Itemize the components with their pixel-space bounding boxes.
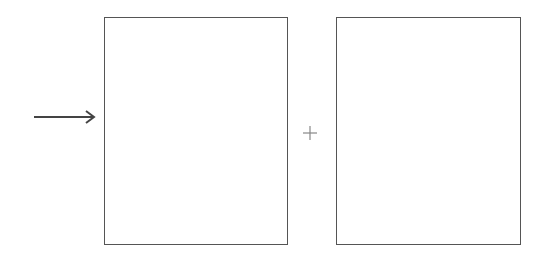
right-panel-content — [337, 18, 338, 19]
left-panel — [104, 17, 288, 245]
left-panel-content — [105, 18, 106, 19]
right-panel — [336, 17, 521, 245]
plus-icon — [302, 125, 318, 141]
arrow-right-icon — [34, 110, 96, 124]
